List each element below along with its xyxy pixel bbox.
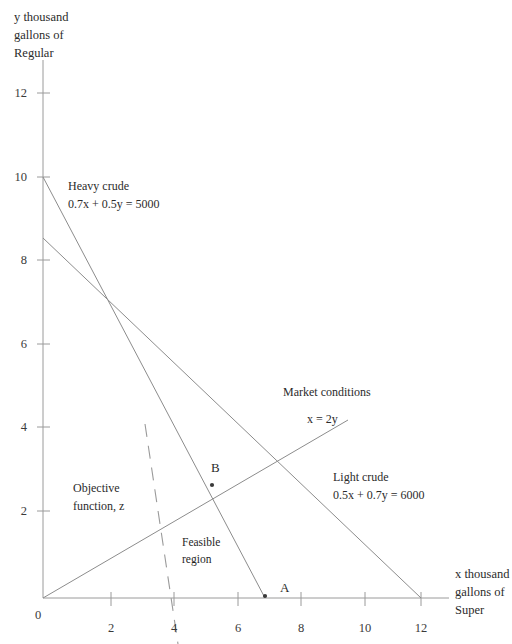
y-tick-label-4: 4 bbox=[21, 420, 28, 434]
y-tick-label-6: 6 bbox=[21, 337, 27, 351]
objective-function-line2: function, z bbox=[73, 499, 124, 513]
objective-function-annotation: Objective function, z bbox=[73, 481, 124, 513]
x-tick-label-6: 6 bbox=[235, 621, 241, 635]
x-axis-title-line1: x thousand bbox=[455, 567, 510, 581]
y-tick-label-8: 8 bbox=[21, 253, 27, 267]
y-axis-title-line3: Regular bbox=[14, 46, 54, 60]
x-axis-title-line2: gallons of bbox=[455, 585, 505, 599]
x-axis-title-line3: Super bbox=[455, 603, 485, 617]
y-axis-title-line2: gallons of bbox=[14, 28, 64, 42]
linear-programming-chart: 12 10 8 6 4 2 0 2 4 6 8 10 12 y thousand… bbox=[0, 0, 512, 644]
market-conditions-title: Market conditions bbox=[283, 385, 371, 399]
market-conditions-annotation: Market conditions x = 2y bbox=[283, 385, 371, 426]
market-conditions-equation: x = 2y bbox=[307, 412, 338, 426]
x-tick-label-2: 2 bbox=[108, 621, 114, 635]
y-tick-label-10: 10 bbox=[15, 170, 28, 184]
light-crude-annotation: Light crude 0.5x + 0.7y = 6000 bbox=[333, 470, 425, 502]
y-tick-label-12: 12 bbox=[15, 86, 28, 100]
x-axis-title: x thousand gallons of Super bbox=[455, 567, 510, 617]
heavy-crude-annotation: Heavy crude 0.7x + 0.5y = 5000 bbox=[68, 179, 160, 211]
plot-svg: 12 10 8 6 4 2 0 2 4 6 8 10 12 y thousand… bbox=[0, 0, 512, 644]
light-crude-title: Light crude bbox=[333, 470, 389, 484]
vertex-dot-a bbox=[263, 594, 267, 598]
light-crude-equation: 0.5x + 0.7y = 6000 bbox=[333, 488, 425, 502]
feasible-region-line1: Feasible bbox=[182, 536, 220, 548]
origin-label: 0 bbox=[35, 608, 41, 622]
x-tick-label-8: 8 bbox=[298, 621, 304, 635]
heavy-crude-equation: 0.7x + 0.5y = 5000 bbox=[68, 197, 160, 211]
feasible-region-line2: region bbox=[182, 553, 212, 566]
y-axis-title-line1: y thousand bbox=[14, 10, 69, 24]
x-tick-label-10: 10 bbox=[359, 621, 372, 635]
objective-function-line1: Objective bbox=[73, 481, 120, 495]
heavy-crude-title: Heavy crude bbox=[68, 179, 129, 193]
x-tick-label-12: 12 bbox=[415, 621, 428, 635]
y-tick-label-2: 2 bbox=[21, 504, 27, 518]
vertex-label-a: A bbox=[280, 580, 290, 595]
y-axis-title: y thousand gallons of Regular bbox=[14, 10, 69, 60]
vertex-dot-b bbox=[210, 483, 214, 487]
x-tick-label-4: 4 bbox=[171, 621, 178, 635]
axes-group bbox=[37, 60, 449, 606]
vertex-label-b: B bbox=[211, 460, 220, 475]
